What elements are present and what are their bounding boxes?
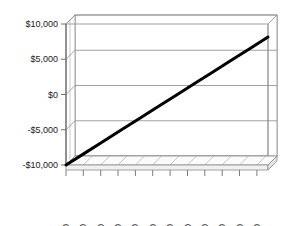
y-tick-label: -$10,000 <box>22 160 58 170</box>
y-axis <box>61 24 66 165</box>
x-axis-tick-labels: $0 $2,000 $4,000 $6,000 $8,000 $10,000 $… <box>61 224 262 226</box>
x-tick-label: $16,000 <box>200 224 210 226</box>
floor-front-face <box>66 165 268 170</box>
x-tick-label: $8,000 <box>130 224 140 226</box>
y-tick-label: $5,000 <box>30 54 58 64</box>
y-tick-label: -$5,000 <box>27 125 58 135</box>
x-tick-label: $2,000 <box>78 224 88 226</box>
y-axis-tick-labels: $10,000 $5,000 $0 -$5,000 -$10,000 <box>22 19 58 170</box>
x-tick-label: $22,000 <box>252 224 262 226</box>
y-tick-label: $10,000 <box>25 19 58 29</box>
chart-floor <box>66 156 277 170</box>
x-tick-label: $14,000 <box>183 224 193 226</box>
y-tick-label: $0 <box>48 90 58 100</box>
chart-container: $10,000 $5,000 $0 -$5,000 -$10,000 <box>0 0 299 226</box>
x-tick-label: $0 <box>61 224 71 226</box>
x-axis-ticks <box>66 170 257 176</box>
x-tick-label: $12,000 <box>165 224 175 226</box>
line-chart: $10,000 $5,000 $0 -$5,000 -$10,000 <box>0 0 299 226</box>
x-tick-label: $10,000 <box>148 224 158 226</box>
x-tick-label: $20,000 <box>235 224 245 226</box>
x-tick-label: $18,000 <box>217 224 227 226</box>
x-tick-label: $4,000 <box>96 224 106 226</box>
x-tick-label: $6,000 <box>113 224 123 226</box>
